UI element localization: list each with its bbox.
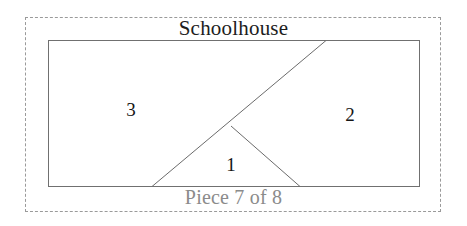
piece-label-1: 1	[219, 155, 243, 174]
figure-title: Schoolhouse	[0, 16, 467, 40]
figure-caption: Piece 7 of 8	[0, 185, 467, 209]
piece-label-2: 2	[338, 105, 362, 124]
piece-label-3: 3	[119, 100, 143, 119]
diagram-canvas: Schoolhouse 3 2 1 Piece 7 of 8	[0, 0, 467, 226]
